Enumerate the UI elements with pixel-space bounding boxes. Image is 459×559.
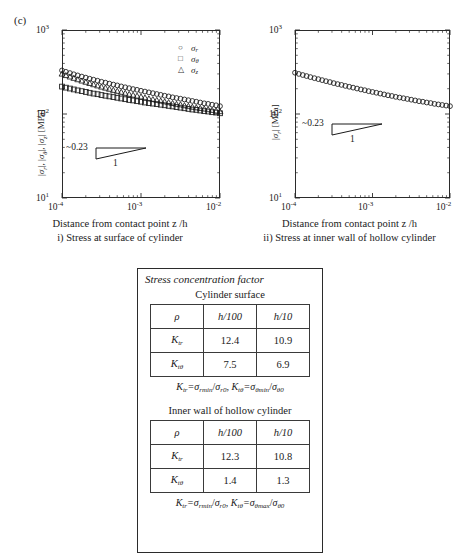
triangle-marker-icon: △ (176, 65, 185, 74)
cell-kttheta-h10: 6.9 (257, 353, 310, 377)
x-tick-2-left: 10-4 (281, 200, 296, 212)
header-h-100: h/100 (204, 420, 257, 444)
section-heading-cylinder-surface: Cylinder surface (138, 286, 322, 304)
cell-ktr-h10: 10.9 (257, 329, 310, 353)
y-tick-1-mid: 102 (36, 107, 49, 119)
slope-label-1: ~0.23 (66, 142, 88, 152)
chart-inner-wall: |σr| [MPa] 103 102 101 10-4 10-3 10-2 Di… (240, 0, 459, 250)
cell-kttheta-h100: 7.5 (204, 353, 257, 377)
row-label-ktr: Ktr (151, 444, 204, 468)
header-rho: ρ (151, 305, 204, 329)
section-heading-inner-wall: Inner wall of hollow cylinder (138, 399, 322, 420)
table-row: Ktθ 7.5 6.9 (151, 353, 310, 377)
legend-item-sigma-theta: □ σθ (176, 53, 199, 64)
header-h-10: h/10 (257, 305, 310, 329)
chart-caption-2: ii) Stress at inner wall of hollow cylin… (228, 232, 459, 243)
table-row: Ktr 12.4 10.9 (151, 329, 310, 353)
legend-label-sigma-z: σz (191, 65, 198, 75)
formula-cylinder-surface: Ktr=σrmin/σr0, Ktθ=σθmin/σθ0 (138, 377, 322, 399)
x-tick-2-mid: 10-3 (358, 200, 373, 212)
slope-denominator-2: 1 (350, 134, 355, 144)
x-tick-1-left: 10-4 (48, 200, 63, 212)
table-row: Ktr 12.3 10.8 (151, 444, 310, 468)
row-label-ktr: Ktr (151, 329, 204, 353)
y-tick-1-top: 103 (36, 23, 49, 35)
x-axis-title-1: Distance from contact point z /h (0, 218, 240, 229)
cell-kttheta-h100: 1.4 (204, 468, 257, 492)
table-inner-wall: ρ h/100 h/10 Ktr 12.3 10.8 Ktθ 1.4 1.3 (150, 420, 310, 493)
circle-marker-icon: ○ (176, 43, 185, 52)
stress-concentration-card: Stress concentration factor Cylinder sur… (137, 268, 323, 553)
cell-ktr-h10: 10.8 (257, 444, 310, 468)
figure-root: (c) |σr|, |σθ|, |σz| [MPa] 103 102 101 1… (0, 0, 459, 559)
table-cylinder-surface: ρ h/100 h/10 Ktr 12.4 10.9 Ktθ 7.5 6.9 (150, 304, 310, 377)
y-axis-title-1: |σr|, |σθ|, |σz| [MPa] (36, 109, 48, 176)
row-label-kttheta: Ktθ (151, 353, 204, 377)
cell-ktr-h100: 12.4 (204, 329, 257, 353)
legend-label-sigma-theta: σθ (191, 54, 199, 64)
legend-label-sigma-r: σr (191, 43, 198, 53)
legend-item-sigma-r: ○ σr (176, 42, 199, 53)
header-h-100: h/100 (204, 305, 257, 329)
slope-label-2: ~0.23 (302, 118, 324, 128)
legend-item-sigma-z: △ σz (176, 64, 199, 75)
chart-cylinder-surface: |σr|, |σθ|, |σz| [MPa] 103 102 101 10-4 … (0, 0, 240, 250)
table-header-row: ρ h/100 h/10 (151, 420, 310, 444)
row-label-kttheta: Ktθ (151, 468, 204, 492)
chart-caption-1: i) Stress at surface of cylinder (0, 232, 240, 243)
card-title: Stress concentration factor (138, 269, 322, 286)
x-axis-title-2: Distance from contact point z /h (240, 218, 459, 229)
table-header-row: ρ h/100 h/10 (151, 305, 310, 329)
formula-inner-wall: Ktr=σrmin/σr0, Ktθ=σθmax/σθ0 (138, 493, 322, 515)
header-h-10: h/10 (257, 420, 310, 444)
y-tick-2-top: 103 (269, 23, 282, 35)
table-row: Ktθ 1.4 1.3 (151, 468, 310, 492)
cell-ktr-h100: 12.3 (204, 444, 257, 468)
cell-kttheta-h10: 1.3 (257, 468, 310, 492)
y-tick-2-mid: 102 (269, 107, 282, 119)
x-tick-1-mid: 10-3 (127, 200, 142, 212)
slope-denominator-1: 1 (113, 158, 118, 168)
x-tick-2-right: 10-2 (436, 200, 451, 212)
header-rho: ρ (151, 420, 204, 444)
square-marker-icon: □ (176, 54, 185, 63)
x-tick-1-right: 10-2 (206, 200, 221, 212)
legend-1: ○ σr □ σθ △ σz (176, 42, 199, 75)
